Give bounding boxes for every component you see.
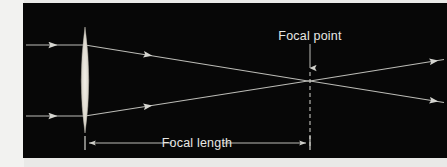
figure-root: Focal point Focal length bbox=[0, 0, 447, 167]
focal-point-label: Focal point bbox=[278, 29, 342, 43]
figure-caption bbox=[23, 158, 447, 167]
focal-length-label: Focal length bbox=[162, 136, 233, 150]
left-margin bbox=[0, 0, 24, 167]
lens-ray-diagram: Focal point Focal length bbox=[0, 0, 447, 167]
